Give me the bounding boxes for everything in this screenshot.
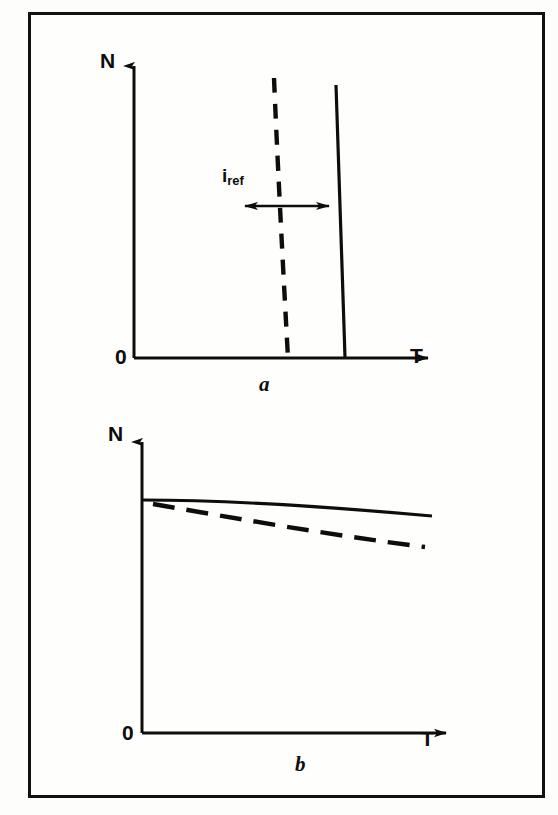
panel-a-curve-shifted-solid bbox=[336, 85, 345, 358]
panel-b-plot bbox=[0, 400, 558, 800]
figure-root: N T 0 iref a N T 0 b bbox=[0, 0, 558, 815]
panel-a-y-axis-label: N bbox=[100, 50, 115, 71]
panel-b-origin-label: 0 bbox=[122, 722, 134, 743]
panel-a-caption-label: a bbox=[259, 374, 270, 395]
panel-a-curve-nominal-dashed bbox=[274, 78, 288, 358]
panel-b-caption-label: b bbox=[295, 754, 306, 775]
iref-subscript: ref bbox=[227, 173, 244, 188]
panel-a-iref-label: iref bbox=[222, 166, 244, 185]
panel-b-y-axis-label: N bbox=[108, 423, 123, 444]
panel-a-x-axis-label: T bbox=[410, 345, 423, 366]
panel-a-plot bbox=[0, 0, 558, 400]
panel-b-curve-nominal-solid bbox=[142, 500, 432, 516]
panel-a-origin-label: 0 bbox=[115, 346, 127, 367]
panel-b-x-axis-label: T bbox=[421, 728, 434, 749]
